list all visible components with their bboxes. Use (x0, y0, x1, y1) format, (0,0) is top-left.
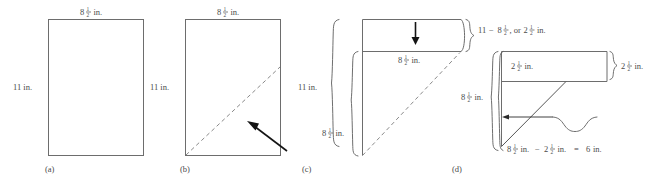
panel-d-strip-height-frac-denominator: 2 (518, 66, 521, 72)
panel-d-side-length-frac-numerator: 1 (468, 91, 471, 97)
panel-d-strip-right-whole: 2 (621, 61, 625, 71)
panel-c-expr-minus: − (489, 25, 494, 35)
panel-c-fold-diagonal (363, 53, 461, 156)
panel-a-width-whole: 8 (80, 7, 84, 17)
panel-d-strip-height-unit: in. (525, 61, 534, 71)
panel-c-folded-height-brace (351, 52, 358, 157)
panel-d-eq-b-frac-denominator: 2 (551, 149, 554, 155)
panel-d-side-length-brace (491, 52, 498, 151)
panel-c-folded-height-frac-denominator: 2 (329, 133, 332, 139)
panel-c-down-arrow (412, 22, 420, 45)
panel-c-expr-left-whole: 11 (478, 25, 486, 35)
panel-c-strip-height-expression: 11 − 8 1 2 , or 2 1 2 in. (478, 24, 546, 37)
panel-d-eq-a-whole: 8 (507, 144, 511, 154)
panel-b: 8 1 2 in. 11 in. (b) (150, 6, 287, 175)
panel-c-strip-width-unit: in. (412, 55, 421, 65)
panel-b-width-frac-denominator: 2 (224, 12, 227, 18)
panel-d-strip-height-label: 2 1 2 in. (511, 60, 533, 73)
panel-a-id: (a) (45, 164, 55, 174)
panel-c-expr-unit: in. (537, 25, 546, 35)
panel-d-strip-height-whole: 2 (511, 61, 515, 71)
panel-c-folded-height-unit: in. (336, 128, 345, 138)
panel-b-width-unit: in. (231, 7, 240, 17)
panel-d-eq-b-unit: in. (558, 144, 567, 154)
panel-c-strip-width-label: 8 1 2 in. (398, 54, 420, 67)
panel-d-id: (d) (452, 164, 462, 174)
panel-d-eq-result: 6 (586, 144, 590, 154)
panel-b-fold-line (186, 67, 280, 155)
panel-c-strip-width-frac-denominator: 2 (405, 60, 408, 66)
panel-d-equation-brace (553, 117, 597, 132)
panel-a-paper-rect (49, 20, 144, 156)
panel-c-strip-width-whole: 8 (398, 55, 402, 65)
panel-d-eq-minus: − (535, 144, 540, 154)
panel-b-width-frac-numerator: 1 (224, 6, 227, 12)
panel-c-expr-sub-frac-denominator: 2 (504, 30, 507, 36)
panel-a-width-frac-numerator: 1 (87, 6, 90, 12)
panel-a: 8 1 2 in. 11 in. (a) (13, 6, 144, 175)
panel-d-eq-a-frac-denominator: 2 (514, 149, 517, 155)
panel-d-eq-a-frac-numerator: 1 (514, 143, 517, 149)
panel-d-eq-a-unit: in. (521, 144, 530, 154)
panel-c-total-height-label: 11 in. (298, 82, 317, 92)
panel-d: 2 1 2 in. 2 1 2 in. 8 1 (452, 52, 643, 175)
panel-c-expr-sub-frac-numerator: 1 (504, 24, 507, 30)
panel-d-eq-equals: = (574, 144, 579, 154)
panel-c-expr-result-frac-denominator: 2 (530, 30, 533, 36)
figure-container: 8 1 2 in. 11 in. (a) 8 1 (0, 0, 648, 180)
panel-c-expr-or: , or (510, 25, 522, 35)
panel-d-strip-right-unit: in. (635, 61, 644, 71)
panel-d-strip-right-label: 2 1 2 in. (621, 60, 643, 73)
panel-a-width-frac-denominator: 2 (87, 12, 90, 18)
panel-b-width-whole: 8 (217, 7, 221, 17)
panel-d-side-length-brace-inner (498, 52, 503, 151)
panel-d-remainder-equation: 8 1 2 in. − 2 1 2 in. = 6 in. (507, 143, 602, 156)
panel-c-strip-height-brace (466, 20, 474, 52)
panel-a-width-label: 8 1 2 in. (80, 6, 102, 19)
panel-c-strip-right-curl (461, 20, 465, 52)
panel-c-folded-height-whole: 8 (322, 128, 326, 138)
panel-d-callout-arrow (502, 115, 553, 120)
panel-c-expr-result-whole: 2 (524, 25, 528, 35)
panel-b-height-label: 11 in. (150, 82, 169, 92)
panel-d-strip-right-frac-denominator: 2 (628, 66, 631, 72)
panel-c-id: (c) (302, 164, 312, 174)
panel-d-strip-right-frac-numerator: 1 (628, 60, 631, 66)
panel-a-width-unit: in. (94, 7, 103, 17)
panel-a-height-label: 11 in. (13, 82, 32, 92)
panel-b-id: (b) (180, 164, 190, 174)
panel-d-side-length-unit: in. (475, 92, 484, 102)
panel-d-eq-result-unit: in. (593, 144, 602, 154)
panel-d-strip-height-frac-numerator: 1 (518, 60, 521, 66)
panel-c-expr-result-frac-numerator: 1 (530, 24, 533, 30)
paper-folding-diagram: 8 1 2 in. 11 in. (a) 8 1 (0, 0, 648, 180)
panel-c-folded-height-frac-numerator: 1 (329, 127, 332, 133)
panel-b-width-label: 8 1 2 in. (217, 6, 239, 19)
panel-d-side-length-label: 8 1 2 in. (461, 91, 483, 104)
panel-d-fold-diagonal (502, 82, 567, 147)
panel-d-eq-b-frac-numerator: 1 (551, 143, 554, 149)
panel-d-side-length-whole: 8 (461, 92, 465, 102)
panel-d-eq-b-whole: 2 (544, 144, 548, 154)
panel-d-side-length-frac-denominator: 2 (468, 97, 471, 103)
panel-c-strip-width-frac-numerator: 1 (405, 54, 408, 60)
panel-c-expr-sub-whole: 8 (498, 25, 502, 35)
panel-d-strip-right-brace (610, 52, 617, 80)
